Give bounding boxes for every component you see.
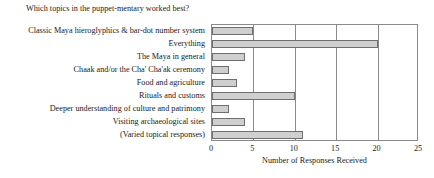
bar-row	[212, 116, 417, 129]
category-label: Deeper understanding of culture and patr…	[50, 104, 205, 114]
bar-row	[212, 25, 417, 38]
category-label: Rituals and customs	[139, 91, 205, 101]
bar	[212, 79, 237, 87]
category-label-row: Food and agriculture	[0, 76, 208, 89]
category-label-row: Deeper understanding of culture and patr…	[0, 102, 208, 115]
category-label-row: Chaak and/or the Cha' Cha'ak ceremony	[0, 63, 208, 76]
x-tick-label: 20	[373, 143, 381, 154]
x-tick-label: 15	[331, 143, 339, 154]
category-label: Everything	[169, 39, 205, 49]
plot-area	[211, 24, 418, 141]
x-axis-tick-labels: 0510152025	[211, 143, 418, 155]
bar	[212, 27, 253, 35]
bar	[212, 53, 245, 61]
bar	[212, 66, 229, 74]
bar-row	[212, 90, 417, 103]
category-label: The Maya in general	[137, 52, 205, 62]
bar-rows	[212, 25, 417, 140]
bar-row	[212, 64, 417, 77]
category-axis-labels: Classic Maya hieroglyphics & bar-dot num…	[0, 24, 208, 141]
category-label-row: The Maya in general	[0, 50, 208, 63]
bar	[212, 118, 245, 126]
x-tick-label: 25	[414, 143, 422, 154]
category-label-row: Everything	[0, 37, 208, 50]
bar-row	[212, 77, 417, 90]
x-tick-label: 5	[250, 143, 254, 154]
category-label: Chaak and/or the Cha' Cha'ak ceremony	[74, 65, 205, 75]
category-label-row: Rituals and customs	[0, 89, 208, 102]
category-label-row: (Varied topical responses)	[0, 128, 208, 141]
bar	[212, 92, 295, 100]
bar-row	[212, 38, 417, 51]
bar-row	[212, 103, 417, 116]
bar	[212, 131, 303, 139]
category-label-row: Visiting archaeological sites	[0, 115, 208, 128]
category-label: (Varied topical responses)	[120, 130, 205, 140]
chart-title: Which topics in the puppet-mentary worke…	[26, 3, 189, 14]
category-label: Visiting archaeological sites	[113, 117, 205, 127]
category-label: Classic Maya hieroglyphics & bar-dot num…	[28, 26, 205, 36]
category-label: Food and agriculture	[137, 78, 205, 88]
bar	[212, 40, 378, 48]
bar	[212, 105, 229, 113]
category-label-row: Classic Maya hieroglyphics & bar-dot num…	[0, 24, 208, 37]
x-axis-title: Number of Responses Received	[211, 155, 418, 166]
x-tick-label: 10	[290, 143, 298, 154]
bar-row	[212, 129, 417, 142]
bar-row	[212, 51, 417, 64]
chart-figure: Which topics in the puppet-mentary worke…	[0, 0, 434, 178]
x-tick-label: 0	[209, 143, 213, 154]
